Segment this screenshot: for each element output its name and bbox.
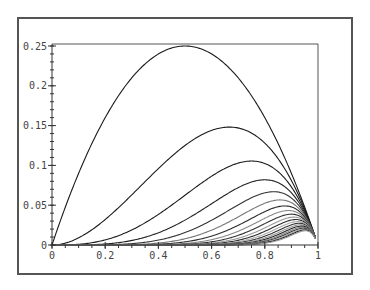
x-tick-label: 0.2 — [96, 250, 114, 261]
y-tick-label: 0 — [41, 240, 47, 251]
x-tick-label: 0.6 — [203, 250, 221, 261]
y-tick-label: 0.05 — [23, 200, 47, 211]
y-tick-label: 0.2 — [29, 80, 47, 91]
x-tick-label: 0.8 — [256, 250, 274, 261]
y-tick-label: 0.25 — [23, 41, 47, 52]
y-axis-ticks: 00.050.10.150.20.25 — [23, 41, 56, 251]
x-tick-label: 0.4 — [149, 250, 167, 261]
x-tick-label: 0 — [49, 250, 55, 261]
curve-n-1 — [52, 46, 315, 245]
curve-series — [52, 46, 315, 245]
x-tick-label: 1 — [315, 250, 321, 261]
y-tick-label: 0.15 — [23, 120, 47, 131]
chart: 00.20.40.60.81 00.050.10.150.20.25 — [0, 0, 370, 290]
y-tick-label: 0.1 — [29, 160, 47, 171]
curve-n-3 — [52, 161, 315, 245]
